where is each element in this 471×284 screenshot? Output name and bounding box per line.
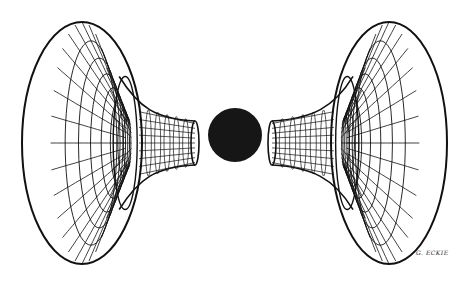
black-sphere xyxy=(208,108,262,162)
right-funnel-wireframe xyxy=(268,22,447,264)
artist-signature: G. ECKIE xyxy=(416,249,449,256)
wormhole-illustration xyxy=(0,0,471,284)
left-funnel-wireframe xyxy=(22,22,199,264)
